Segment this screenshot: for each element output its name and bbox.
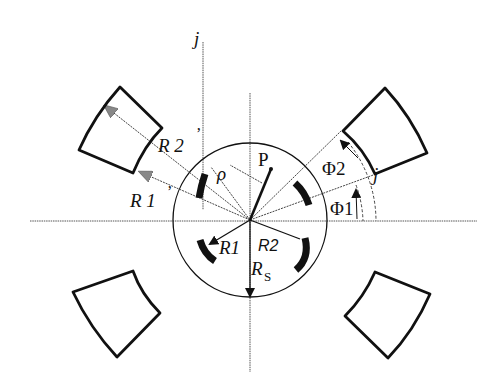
magnet-lower-left [73, 271, 160, 357]
magnet-upper-left [79, 87, 162, 173]
r2-prime-label: R 2 [157, 135, 184, 156]
point-p-vector [250, 169, 271, 220]
rs-subscript: S [264, 269, 271, 284]
r2-label: R2 [258, 237, 279, 254]
point-p-label: P [258, 149, 269, 170]
r1-prime-label: R 1 [129, 190, 156, 211]
point-p-dot [269, 167, 273, 171]
magnet-array-diagram: j j P ρ R 2 ’ R 1 ’ Φ2 Φ1 R1 R2 R S [0, 0, 498, 386]
r1-prime-mark: ’ [167, 183, 172, 200]
pole-arc-upper-left [199, 174, 205, 198]
phi1-label: Φ1 [330, 198, 353, 219]
magnet-upper-right [343, 88, 427, 174]
r1-prime-arrow [140, 172, 250, 220]
phi1-arrow [356, 190, 357, 219]
pole-arc-lower-left [200, 240, 215, 261]
r2-prime-arrow [105, 106, 250, 220]
magnet-lower-right [345, 272, 430, 358]
rho-label: ρ [216, 163, 226, 184]
phi2-label: Φ2 [322, 158, 345, 179]
rs-label: R [250, 258, 263, 279]
axis-j-label: j [191, 28, 199, 49]
pole-arc-lower-right [296, 238, 306, 270]
r2-prime-mark: ’ [196, 125, 201, 142]
pole-arc-upper-right [295, 183, 309, 205]
r1-label: R1 [218, 237, 240, 258]
